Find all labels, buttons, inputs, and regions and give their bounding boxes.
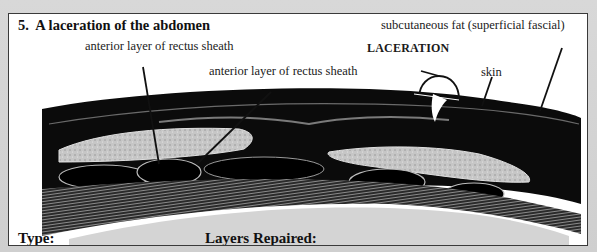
question-text: A laceration of the abdomen [35,17,210,33]
label-subcutaneous-fat: subcutaneous fat (superficial fascial) [381,18,565,33]
question-title: 5. A laceration of the abdomen [18,17,210,34]
layers-repaired-label: Layers Repaired: [205,230,317,246]
type-answer-blank[interactable] [66,245,184,246]
label-anterior-rectus-sheath-1: anterior layer of rectus sheath [85,39,234,54]
question-card: 5. A laceration of the abdomen anterior … [8,13,588,246]
label-laceration: LACERATION [367,41,449,56]
question-number: 5. [18,17,29,33]
label-anterior-rectus-sheath-2: anterior layer of rectus sheath [209,64,358,79]
layers-repaired-answer-blank[interactable] [311,245,486,246]
type-label: Type: [18,230,54,246]
label-skin: skin [481,65,502,80]
